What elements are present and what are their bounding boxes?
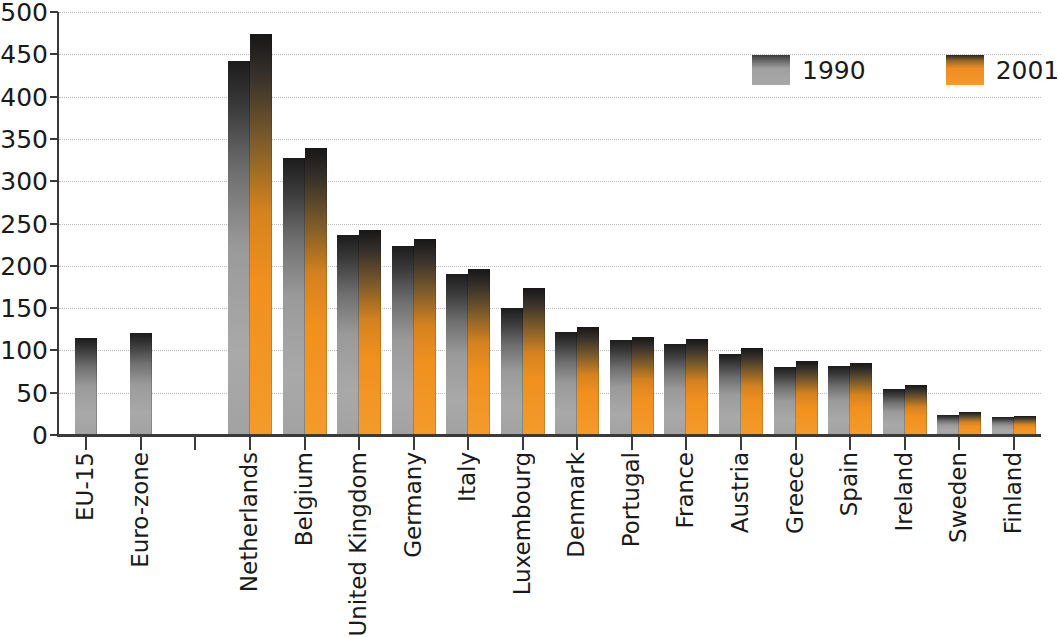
y-tick-label: 100 [0,338,48,363]
x-tick-mark [140,437,142,450]
y-tick-label: 400 [0,84,48,109]
x-tick-mark [358,437,360,450]
y-tick-mark [50,349,58,351]
x-tick-mark [740,437,742,450]
bar-1990[interactable] [664,344,686,435]
x-tick-mark [904,437,906,450]
bar-1990[interactable] [75,338,97,435]
bar-1990[interactable] [555,332,577,435]
y-tick-mark [50,11,58,13]
bar-group [184,12,206,435]
x-tick-label: Netherlands [238,452,261,592]
x-tick-mark [467,437,469,450]
y-tick-mark [50,96,58,98]
legend-swatch-1990-icon [752,55,790,85]
x-tick-mark [85,437,87,450]
x-tick-label: Finland [1002,452,1025,534]
y-tick-mark [50,223,58,225]
x-tick-mark [576,437,578,450]
x-axis-tick-marks [59,437,1041,451]
bar-1990[interactable] [337,235,359,436]
bar-1990[interactable] [283,158,305,435]
x-tick-label: Belgium [293,452,316,546]
y-tick-mark [50,180,58,182]
bar-2001[interactable] [250,34,272,435]
bar-1990[interactable] [228,61,250,435]
x-tick-mark [1013,437,1015,450]
bar-1990[interactable] [992,417,1014,435]
bar-2001[interactable] [414,239,436,435]
bar-2001[interactable] [1014,416,1036,435]
bar-2001[interactable] [632,337,654,435]
x-tick-mark [194,437,196,450]
legend-swatch-2001-icon [946,55,984,85]
x-tick-mark [685,437,687,450]
bar-1990[interactable] [719,354,741,435]
y-tick-label: 200 [0,253,48,278]
x-tick-label: Denmark [565,452,588,558]
y-tick-mark [50,307,58,309]
x-tick-label: EU-15 [74,452,97,521]
bar-2001[interactable] [577,327,599,435]
y-tick-label: 450 [0,42,48,67]
y-tick-label: 500 [0,0,48,25]
bar-1990[interactable] [774,367,796,435]
x-tick-label: United Kingdom [347,452,370,637]
y-tick-label: 150 [0,296,48,321]
x-tick-label: Luxembourg [511,452,534,595]
bar-2001[interactable] [686,339,708,435]
bar-group [228,12,272,435]
y-tick-mark [50,392,58,394]
legend-entry-1990[interactable]: 1990 [752,55,866,85]
legend-entry-2001[interactable]: 2001 [946,55,1059,85]
bar-1990[interactable] [883,389,905,435]
bar-2001[interactable] [523,288,545,435]
bar-1990[interactable] [501,308,523,435]
bar-1990[interactable] [610,340,632,435]
x-tick-mark [795,437,797,450]
bar-1990[interactable] [446,274,468,435]
bar-group [283,12,327,435]
bar-2001[interactable] [305,148,327,435]
bar-group [501,12,545,435]
x-tick-label: France [674,452,697,528]
bar-group [610,12,654,435]
legend-label-2001: 2001 [996,58,1059,83]
bar-2001[interactable] [959,412,981,435]
y-tick-mark [50,53,58,55]
bar-2001[interactable] [468,269,490,435]
chart-legend: 1990 2001 [752,55,1059,85]
bar-2001[interactable] [796,361,818,435]
bar-1990[interactable] [937,415,959,435]
y-tick-label: 0 [32,423,48,448]
bar-group [130,12,152,435]
bar-group [446,12,490,435]
x-tick-mark [958,437,960,450]
x-axis-labels: EU-15Euro-zoneNetherlandsBelgiumUnited K… [59,452,1041,627]
y-tick-mark [50,138,58,140]
x-tick-label: Italy [456,452,479,502]
x-tick-label: Portugal [620,452,643,547]
x-tick-label: Spain [838,452,861,516]
y-tick-label: 350 [0,126,48,151]
y-tick-label: 50 [16,380,48,405]
bar-2001[interactable] [850,363,872,435]
bar-2001[interactable] [905,385,927,435]
bar-1990[interactable] [392,246,414,435]
bar-1990[interactable] [828,366,850,435]
bar-group [664,12,708,435]
bar-group [75,12,97,435]
x-tick-mark [304,437,306,450]
x-tick-mark [413,437,415,450]
bar-2001[interactable] [359,230,381,435]
x-tick-label: Greece [784,452,807,534]
bar-2001[interactable] [741,348,763,435]
bar-1990[interactable] [130,333,152,435]
x-tick-label: Euro-zone [129,452,152,568]
x-tick-label: Austria [729,452,752,533]
x-tick-label: Ireland [893,452,916,532]
x-tick-label: Sweden [947,452,970,543]
x-tick-label: Germany [402,452,425,558]
y-axis-labels: 050100150200250300350400450500 [0,0,48,627]
